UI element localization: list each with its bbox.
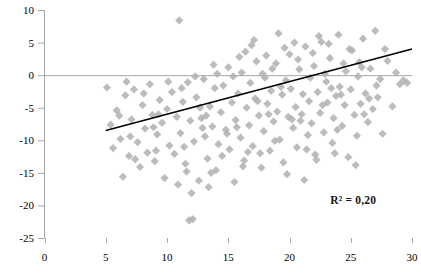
data-point [260,127,268,135]
data-point [283,170,291,178]
data-point [180,143,188,151]
data-point [138,101,146,109]
data-point [336,83,344,91]
data-point [331,149,339,157]
data-point [360,110,368,118]
data-point [245,121,253,129]
data-point [300,176,308,184]
data-point [263,100,271,108]
data-point [103,83,111,91]
data-point [149,123,157,131]
data-point [262,52,270,60]
data-point [366,65,374,73]
data-point [152,147,160,155]
data-point [235,53,243,61]
y-tick-label: 0 [0,70,34,81]
data-point [143,149,151,157]
data-point [141,124,149,132]
data-point [173,113,181,121]
data-point [298,110,306,118]
data-point [164,78,172,86]
data-point [383,57,391,65]
data-point [294,55,302,63]
data-point [184,78,192,86]
scatter-chart: 1050-5-10-15-20-25 051015202530 R² = 0,2… [0,0,421,278]
y-tick-label: -5 [0,102,34,113]
data-point [281,44,289,52]
data-point [304,131,312,139]
x-tick-label: 15 [223,252,234,263]
data-point [359,35,367,43]
data-point [388,102,396,110]
data-point [107,121,115,129]
data-point [225,145,233,153]
data-point [285,50,293,58]
data-point [371,27,379,35]
x-tick-label: 5 [103,252,109,263]
data-point [156,96,164,104]
data-point [310,62,318,70]
data-point [328,139,336,147]
data-point [214,140,222,148]
data-point [136,163,144,171]
data-point [230,178,238,186]
data-point [372,81,380,89]
data-point [240,156,248,164]
data-point [170,150,178,158]
data-point [316,109,324,117]
data-point [134,138,142,146]
data-point [174,180,182,188]
data-point [290,38,298,46]
data-point [287,85,295,93]
data-point [330,114,338,122]
data-point [140,89,148,97]
data-point [192,93,200,101]
data-point [198,124,206,132]
data-point [187,189,195,197]
data-point [279,158,287,166]
x-tick-label: 30 [407,252,418,263]
data-point [203,154,211,162]
r-squared-annotation: R² = 0,20 [330,194,376,206]
data-point [175,16,183,24]
data-point [295,65,303,73]
x-tick-label: 20 [284,252,295,263]
data-point [350,111,358,119]
data-point [374,93,382,101]
data-point [307,119,315,127]
data-point [236,134,244,142]
y-tick-label: 5 [0,37,34,48]
data-point [201,132,209,140]
data-point [121,91,129,99]
data-point [257,164,265,172]
data-point [278,91,286,99]
data-point [314,88,322,96]
data-point [301,42,309,50]
data-point [320,128,328,136]
y-tick-label: -15 [0,167,34,178]
data-point [178,84,186,92]
data-point [116,135,124,143]
data-point [217,108,225,116]
data-point [274,29,282,37]
y-axis-ticks [38,11,45,239]
x-tick-label: 25 [345,252,356,263]
data-point [165,141,173,149]
data-point [342,67,350,75]
data-point [354,72,362,80]
data-point [305,97,313,105]
data-point [356,100,364,108]
data-point [200,75,208,83]
data-point [347,85,355,93]
data-point [265,110,273,118]
data-point [209,61,217,69]
data-point [126,132,134,140]
data-point [353,132,361,140]
data-point [122,78,130,86]
y-tick-label: -20 [0,200,34,211]
data-point [325,40,333,48]
data-point [153,130,161,138]
data-point [181,160,189,168]
data-point [191,72,199,80]
data-point [379,130,387,138]
